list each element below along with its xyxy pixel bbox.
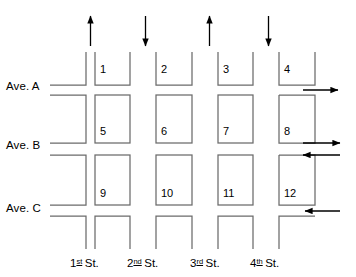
block-number: 11 — [223, 188, 234, 199]
street-ordinal-suffix: th — [256, 257, 262, 266]
block-shape-r4c4 — [279, 216, 315, 249]
street-word: St. — [206, 257, 220, 269]
street-label-1: 1stSt. — [70, 258, 99, 270]
street-label-4: 4thSt. — [250, 258, 279, 270]
block-shape-r2c0 — [50, 95, 86, 143]
block-number: 9 — [100, 188, 106, 199]
avenue-label-a: Ave. A — [6, 81, 40, 93]
block-number: 2 — [161, 64, 167, 75]
grid-canvas — [0, 0, 356, 277]
block-number: 3 — [223, 64, 229, 75]
block-number: 10 — [161, 188, 173, 199]
street-ordinal-suffix: nd — [133, 257, 141, 266]
street-word: St. — [265, 257, 279, 269]
block-shape-r1c0 — [50, 52, 86, 85]
street-label-2: 2ndSt. — [127, 258, 158, 270]
street-word: St. — [144, 257, 158, 269]
street-word: St. — [85, 257, 99, 269]
block-shape-r4c3 — [218, 216, 253, 249]
street-ordinal-suffix: st — [76, 257, 82, 266]
street-ordinal-suffix: rd — [196, 257, 203, 266]
block-number: 5 — [100, 126, 106, 137]
block-number: 12 — [284, 188, 296, 199]
block-shape-r4c2 — [156, 216, 192, 249]
block-shape-r3c0 — [50, 155, 86, 205]
direction-arrows — [91, 16, 341, 211]
street-grid-diagram: Ave. A Ave. B Ave. C 1 2 3 4 5 6 7 8 9 1… — [0, 0, 356, 277]
block-number: 6 — [161, 126, 167, 137]
block-outlines — [50, 52, 315, 249]
block-number: 4 — [284, 64, 290, 75]
block-number: 8 — [284, 126, 290, 137]
street-label-3: 3rdSt. — [190, 258, 220, 270]
avenue-label-c: Ave. C — [6, 203, 41, 215]
avenue-label-b: Ave. B — [6, 140, 40, 152]
block-number: 7 — [223, 126, 229, 137]
block-shape-r4c0 — [50, 216, 86, 249]
block-number: 1 — [100, 64, 106, 75]
block-shape-r4c1 — [95, 216, 130, 249]
